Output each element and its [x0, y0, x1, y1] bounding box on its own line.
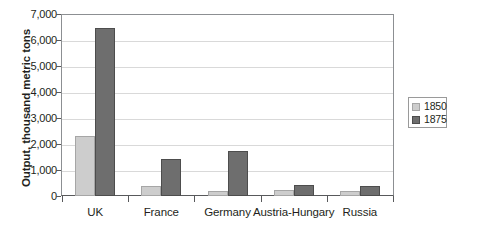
x-axis-tick-mark	[194, 196, 195, 202]
bar	[161, 159, 181, 196]
x-axis-tick-mark	[128, 196, 129, 202]
y-axis-tick-mark	[56, 196, 61, 197]
legend-swatch-1850	[412, 103, 420, 111]
bar	[141, 186, 161, 196]
legend-label-1875: 1875	[424, 114, 447, 125]
y-axis-tick-label: 2,000	[5, 139, 57, 150]
x-axis-tick-mark	[261, 196, 262, 202]
x-axis-tick-mark	[327, 196, 328, 202]
bar-series-layer	[62, 14, 393, 196]
legend-swatch-1875	[412, 116, 420, 124]
y-axis-tick-label: 6,000	[5, 35, 57, 46]
y-axis-tick-label: 7,000	[5, 9, 57, 20]
bar	[208, 191, 228, 196]
chart-legend: 1850 1875	[408, 97, 447, 128]
bar	[294, 185, 314, 196]
y-axis-tick-label: 4,000	[5, 87, 57, 98]
legend-item-1875: 1875	[412, 113, 446, 126]
legend-label-1850: 1850	[424, 101, 447, 112]
y-axis-tick-label: 0	[5, 191, 57, 202]
y-axis-tick-label: 1,000	[5, 165, 57, 176]
y-axis-tick-label: 5,000	[5, 61, 57, 72]
x-axis-tick-mark	[393, 196, 394, 202]
bar	[360, 186, 380, 196]
legend-item-1850: 1850	[412, 100, 446, 113]
bar	[95, 28, 115, 196]
bar	[274, 190, 294, 196]
bar	[75, 136, 95, 196]
x-axis-tick-mark	[62, 196, 63, 202]
caption-fragment	[8, 243, 308, 249]
y-axis-tick-label: 3,000	[5, 113, 57, 124]
bar	[228, 151, 248, 196]
bar-chart-figure: Output, thousand metric tons 7,0006,0005…	[0, 0, 477, 249]
bar	[340, 191, 360, 196]
x-axis-tick-label: Russia	[312, 205, 408, 219]
